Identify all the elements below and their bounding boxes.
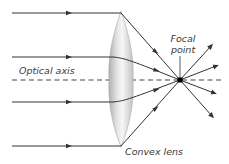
convex-lens xyxy=(109,11,133,147)
convex-lens-diagram xyxy=(0,0,229,164)
diverging-rays xyxy=(180,46,216,116)
focal-point-label-line1: Focal xyxy=(166,33,200,44)
focal-point-label: Focal point xyxy=(166,33,200,55)
focal-point-dot xyxy=(178,78,183,83)
focal-point-label-line2: point xyxy=(166,44,200,55)
convex-lens-label: Convex lens xyxy=(125,147,183,157)
optical-axis-label: Optical axis xyxy=(19,66,75,76)
